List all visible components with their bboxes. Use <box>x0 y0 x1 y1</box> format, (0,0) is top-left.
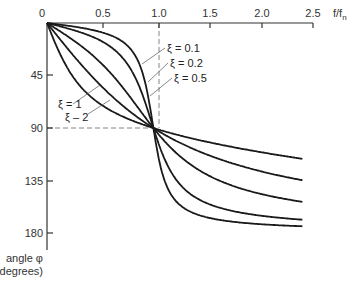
x-ticks <box>103 23 313 28</box>
y-tick-label: 135 <box>25 175 43 187</box>
x-axis-label: f/fn <box>333 7 347 22</box>
x-tick-label: 0.5 <box>95 7 110 19</box>
y-tick-label: 180 <box>25 227 43 239</box>
curve-label-xi-1: ξ = 1 <box>58 98 82 110</box>
curve-label-xi-0.5: ξ = 0.5 <box>174 72 207 84</box>
y-tick-label: 90 <box>31 122 43 134</box>
curve-label-xi-2: ξ – 2 <box>65 111 88 123</box>
x-tick-label: 1.0 <box>151 7 166 19</box>
curve-label-xi-0.2: ξ = 0.2 <box>170 57 203 69</box>
x-tick-label: 2.5 <box>305 7 320 19</box>
y-axis-label: angle φ <box>6 252 43 264</box>
y-tick-label: 45 <box>31 69 43 81</box>
phase-response-chart: 0 0.5 1.0 1.5 2.0 2.5 f/fn 45 90 135 180… <box>0 0 355 285</box>
x-tick-label: 1.5 <box>202 7 217 19</box>
x-tick-label: 0 <box>39 7 45 19</box>
x-tick-label: 2.0 <box>254 7 269 19</box>
curve-label-xi-0.1: ξ = 0.1 <box>167 42 200 54</box>
y-axis-label-units: (degrees) <box>0 265 43 277</box>
y-ticks <box>47 75 53 233</box>
